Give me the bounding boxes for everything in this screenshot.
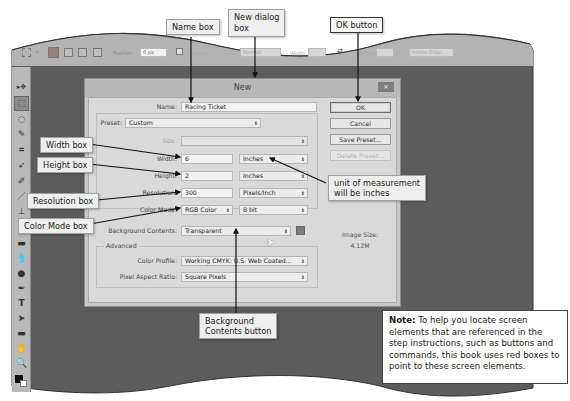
- image-size-value: 4.12M: [330, 242, 390, 249]
- background-color-swatch[interactable]: [20, 380, 27, 387]
- chevron-updown-icon: ⬍: [301, 257, 305, 265]
- width-input[interactable]: 6: [181, 154, 233, 164]
- quick-selection-tool-icon[interactable]: ✎: [15, 128, 28, 141]
- callout-ok-button: OK button: [330, 17, 383, 33]
- chevron-updown-icon: ⬍: [301, 137, 305, 145]
- height-unit-value: Inches: [243, 172, 263, 179]
- delete-preset-button[interactable]: Delete Preset...: [330, 150, 391, 161]
- lasso-tool-icon[interactable]: ◌: [15, 113, 28, 126]
- swap-icon[interactable]: ⇄: [337, 47, 343, 55]
- name-label: Name:: [109, 102, 177, 112]
- width-unit-value: Inches: [243, 155, 263, 162]
- color-profile-select[interactable]: Working CMYK: U.S. Web Coated... ⬍: [181, 256, 308, 266]
- color-profile-value: Working CMYK: U.S. Web Coated...: [185, 257, 292, 264]
- callout-unit-line1: unit of measurement: [334, 178, 420, 188]
- width-label: Width:: [290, 50, 306, 56]
- hand-tool-icon[interactable]: ✋: [15, 342, 28, 355]
- ok-button[interactable]: OK: [330, 102, 391, 113]
- note-heading: Note:: [389, 315, 415, 325]
- bit-depth-select[interactable]: 8 bit ⬍: [239, 205, 308, 215]
- rectangle-tool-icon[interactable]: ▬: [15, 327, 28, 340]
- new-selection-icon[interactable]: [48, 47, 59, 58]
- name-input[interactable]: Racing Ticket: [181, 102, 317, 112]
- chevron-updown-icon: ⬍: [226, 206, 230, 214]
- callout-new-dialog-box: New dialog box: [228, 9, 285, 37]
- color-mode-value: RGB Color: [185, 206, 216, 213]
- image-size-label: Image Size:: [330, 231, 390, 238]
- resolution-label: Resolution:: [109, 188, 177, 198]
- callout-bg-line2: Contents button: [205, 326, 271, 336]
- height-label: Height:: [358, 50, 376, 56]
- zoom-tool-icon[interactable]: 🔍: [15, 357, 28, 370]
- rectangular-marquee-tool-icon[interactable]: ⬚: [15, 97, 28, 110]
- chevron-updown-icon: ⬍: [301, 189, 305, 197]
- color-profile-label: Color Profile:: [109, 256, 177, 266]
- size-select[interactable]: ⬍: [181, 136, 308, 146]
- preset-select-value: Custom: [129, 119, 153, 126]
- screenshot-frame: ▾ Feather: 0 px Anti-alias Style: Normal…: [0, 0, 570, 401]
- eyedropper-tool-icon[interactable]: ➶: [15, 159, 28, 172]
- chevron-updown-icon: ⬍: [301, 206, 305, 214]
- callout-resolution-box: Resolution box: [27, 193, 99, 209]
- height-unit-select[interactable]: Inches ⬍: [239, 171, 308, 181]
- type-tool-icon[interactable]: T: [15, 297, 28, 310]
- preset-label: Preset:: [98, 118, 122, 128]
- width-unit-select[interactable]: Inches ⬍: [239, 154, 308, 164]
- callout-name-box: Name box: [166, 19, 220, 35]
- note-body: To help you locate screen elements that …: [389, 315, 560, 371]
- chevron-updown-icon: ⬍: [301, 273, 305, 281]
- height-label: Height:: [109, 171, 177, 181]
- preset-select[interactable]: Custom ⬍: [125, 118, 261, 128]
- move-tool-icon[interactable]: ▸✥: [15, 81, 28, 94]
- callout-new-dialog-line1: New dialog: [234, 12, 279, 23]
- background-contents-select[interactable]: Transparent ⬍: [181, 226, 291, 236]
- callout-unit-of-measurement: unit of measurement will be inches: [328, 175, 426, 201]
- background-contents-value: Transparent: [185, 227, 222, 234]
- pen-tool-icon[interactable]: ✒: [15, 282, 28, 295]
- anti-alias-checkbox[interactable]: [176, 48, 183, 55]
- height-input[interactable]: 2: [181, 171, 233, 181]
- color-mode-label: Color Mode:: [109, 205, 177, 215]
- anti-alias-label: Anti-alias: [186, 50, 209, 56]
- callout-bg-line1: Background: [205, 316, 271, 326]
- intersect-selection-icon[interactable]: [93, 48, 102, 57]
- feather-label: Feather:: [113, 50, 134, 56]
- resolution-input[interactable]: 300: [181, 188, 233, 198]
- background-color-swatch[interactable]: [296, 226, 305, 235]
- callout-unit-line2: will be inches: [334, 188, 420, 198]
- width-input[interactable]: [308, 48, 326, 57]
- mouse-pointer-icon: ➤: [266, 236, 275, 249]
- resolution-unit-select[interactable]: Pixels/Inch ⬍: [239, 188, 308, 198]
- color-mode-select[interactable]: RGB Color ⬍: [181, 205, 233, 215]
- add-to-selection-icon[interactable]: [64, 48, 73, 57]
- width-label: Width:: [109, 154, 177, 164]
- pixel-aspect-ratio-label: Pixel Aspect Ratio:: [93, 272, 177, 282]
- dialog-title: New: [85, 79, 400, 97]
- tool-preset-chevron-icon[interactable]: ▾: [36, 49, 39, 55]
- healing-brush-tool-icon[interactable]: ✐: [15, 175, 28, 188]
- crop-tool-icon[interactable]: ⌗: [15, 144, 28, 157]
- size-label: Size:: [109, 136, 177, 146]
- pixel-aspect-ratio-select[interactable]: Square Pixels ⬍: [181, 272, 308, 282]
- close-icon[interactable]: ×: [378, 82, 394, 92]
- callout-height-box: Height box: [37, 157, 93, 173]
- dodge-tool-icon[interactable]: ●: [15, 267, 28, 280]
- marquee-tool-icon[interactable]: [22, 48, 31, 57]
- callout-new-dialog-line2: box: [234, 23, 279, 34]
- cancel-button[interactable]: Cancel: [330, 118, 391, 129]
- refine-edge-button[interactable]: Refine Edge...: [409, 48, 454, 57]
- feather-input[interactable]: 0 px: [140, 48, 167, 57]
- path-selection-tool-icon[interactable]: ➤: [15, 312, 28, 325]
- gradient-tool-icon[interactable]: ▬: [15, 237, 28, 250]
- callout-color-mode-box: Color Mode box: [18, 218, 94, 234]
- bit-depth-value: 8 bit: [243, 206, 257, 213]
- subtract-from-selection-icon[interactable]: [78, 48, 87, 57]
- blur-tool-icon[interactable]: 💧: [15, 252, 28, 265]
- style-select[interactable]: Normal: [240, 48, 281, 57]
- callout-background-contents-button: Background Contents button: [199, 313, 277, 339]
- height-input[interactable]: [376, 48, 394, 57]
- save-preset-button[interactable]: Save Preset...: [330, 134, 391, 145]
- chevron-updown-icon: ⬍: [301, 155, 305, 163]
- background-contents-label: Background Contents:: [93, 226, 177, 236]
- pixel-aspect-ratio-value: Square Pixels: [185, 273, 226, 280]
